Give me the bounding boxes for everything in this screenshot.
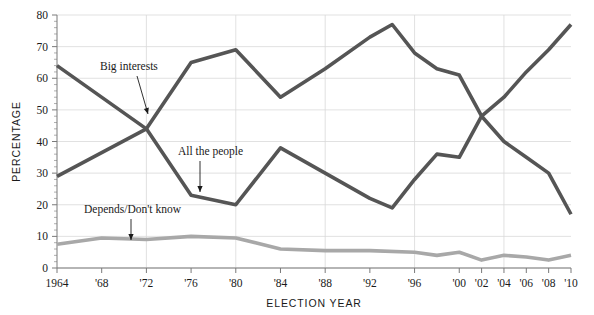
- annotation-label: All the people: [178, 145, 243, 158]
- x-tick-label: '76: [184, 277, 198, 289]
- y-axis-title: PERCENTAGE: [10, 101, 22, 182]
- x-tick-label: '04: [497, 277, 511, 289]
- x-tick-label: '88: [318, 277, 332, 289]
- chart-container: 010203040506070801964'68'72'76'80'84'88'…: [0, 0, 594, 315]
- x-tick-label: '84: [274, 277, 288, 289]
- x-tick-label: '00: [452, 277, 466, 289]
- x-tick-label: '02: [475, 277, 489, 289]
- y-tick-label: 70: [37, 41, 49, 53]
- y-tick-label: 60: [37, 72, 49, 84]
- x-axis-title: ELECTION YEAR: [266, 297, 362, 309]
- y-tick-label: 40: [37, 136, 49, 148]
- y-tick-label: 20: [37, 199, 49, 211]
- annotation-arrowhead: [197, 186, 202, 192]
- y-tick-label: 0: [42, 262, 48, 274]
- x-tick-label: '80: [229, 277, 243, 289]
- annotation-label: Big interests: [100, 60, 158, 73]
- x-tick-label: '96: [408, 277, 422, 289]
- x-tick-label: '08: [542, 277, 556, 289]
- series-line-depends-don-t-know: [57, 236, 571, 260]
- y-tick-label: 30: [37, 167, 49, 179]
- x-tick-label: '68: [95, 277, 109, 289]
- annotation-label: Depends/Don't know: [84, 203, 182, 216]
- series-line-all-the-people: [57, 24, 571, 207]
- x-tick-label: '92: [363, 277, 377, 289]
- line-chart: 010203040506070801964'68'72'76'80'84'88'…: [0, 0, 594, 315]
- x-tick-label: '10: [564, 277, 578, 289]
- y-tick-label: 50: [37, 104, 49, 116]
- y-tick-label: 80: [37, 9, 49, 21]
- y-tick-label: 10: [37, 230, 49, 242]
- x-tick-label: 1964: [46, 277, 69, 289]
- x-tick-label: '72: [140, 277, 154, 289]
- x-tick-label: '06: [520, 277, 534, 289]
